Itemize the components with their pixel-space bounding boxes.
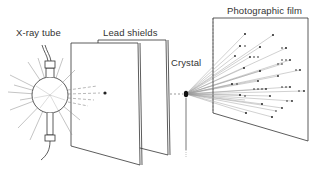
- pinhole-icon: [103, 91, 106, 94]
- crystal-icon: [184, 91, 188, 158]
- diagram-canvas: [0, 0, 315, 179]
- lead-shield-front: [71, 43, 142, 165]
